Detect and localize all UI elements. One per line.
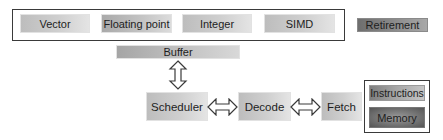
integer-unit: Integer — [182, 14, 252, 33]
decode-fetch-arrow-icon — [290, 98, 321, 116]
vector-unit: Vector — [20, 14, 90, 33]
floating-point-unit: Floating point — [101, 14, 172, 33]
retirement-unit: Retirement — [357, 18, 428, 32]
memory-block: Memory — [369, 107, 425, 128]
scheduler-decode-arrow-icon — [207, 98, 238, 116]
scheduler: Scheduler — [146, 92, 208, 121]
simd-unit: SIMD — [264, 14, 335, 33]
buffer: Buffer — [116, 45, 240, 59]
fetch: Fetch — [321, 92, 362, 121]
instructions-block: Instructions — [369, 85, 425, 101]
buffer-scheduler-arrow-icon — [168, 60, 188, 90]
decode: Decode — [238, 92, 291, 121]
